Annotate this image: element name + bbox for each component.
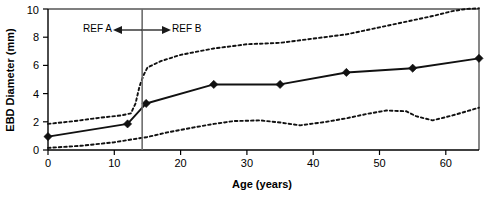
y-axis-ticks <box>43 9 48 150</box>
ref-b-label: REF B <box>172 23 202 34</box>
y-tick-label-10: 10 <box>27 4 39 16</box>
y-axis-tick-labels: 0 2 4 6 8 10 <box>27 4 39 157</box>
x-axis-ticks <box>48 150 446 155</box>
chart-plot-area: 0 2 4 6 8 10 0 10 20 30 40 50 60 <box>0 0 489 202</box>
x-tick-label-30: 30 <box>241 157 253 169</box>
x-tick-label-20: 20 <box>174 157 186 169</box>
x-axis-tick-labels: 0 10 20 30 40 50 60 <box>45 157 452 169</box>
y-tick-label-0: 0 <box>33 144 39 156</box>
y-tick-label-8: 8 <box>33 31 39 43</box>
y-tick-label-4: 4 <box>33 88 39 100</box>
y-axis-title: EBD Diameter (mm) <box>4 28 16 132</box>
ref-a-label: REF A <box>83 23 112 34</box>
y-tick-label-6: 6 <box>33 59 39 71</box>
plot-background <box>48 9 479 150</box>
x-tick-label-10: 10 <box>108 157 120 169</box>
x-tick-label-0: 0 <box>45 157 51 169</box>
y-tick-label-2: 2 <box>33 116 39 128</box>
chart-figure: 0 2 4 6 8 10 0 10 20 30 40 50 60 <box>0 0 489 202</box>
x-tick-label-50: 50 <box>373 157 385 169</box>
x-tick-label-60: 60 <box>440 157 452 169</box>
x-tick-label-40: 40 <box>307 157 319 169</box>
x-axis-title: Age (years) <box>232 178 292 190</box>
